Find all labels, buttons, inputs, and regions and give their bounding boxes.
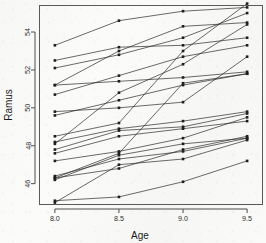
data-point bbox=[54, 59, 57, 62]
data-point bbox=[246, 120, 249, 123]
data-point bbox=[246, 116, 249, 119]
data-point bbox=[118, 50, 121, 53]
x-tick-label: 8.0 bbox=[50, 214, 60, 223]
series-line bbox=[55, 74, 247, 116]
x-tick-label: 9.5 bbox=[242, 214, 252, 223]
data-point bbox=[182, 63, 185, 66]
data-point bbox=[182, 44, 185, 47]
data-point bbox=[182, 10, 185, 13]
data-point bbox=[118, 107, 121, 110]
data-point bbox=[118, 163, 121, 166]
data-point bbox=[246, 72, 249, 75]
data-point bbox=[246, 44, 249, 47]
data-point bbox=[54, 135, 57, 138]
series-subject-6 bbox=[54, 36, 249, 61]
data-point bbox=[54, 148, 57, 151]
series-subject-10 bbox=[54, 139, 249, 204]
series-layer bbox=[54, 2, 249, 204]
data-point bbox=[182, 143, 185, 146]
data-point bbox=[118, 91, 121, 94]
data-point bbox=[118, 99, 121, 102]
x-axis: 8.08.59.09.5 bbox=[50, 209, 252, 223]
data-point bbox=[54, 201, 57, 204]
data-point bbox=[246, 55, 249, 58]
series-line bbox=[55, 57, 247, 112]
series-subject-14 bbox=[54, 110, 249, 143]
data-point bbox=[246, 137, 249, 140]
data-point bbox=[246, 2, 249, 5]
data-point bbox=[182, 50, 185, 53]
x-tick-label: 9.0 bbox=[178, 214, 188, 223]
data-point bbox=[54, 141, 57, 144]
y-tick-label: 48 bbox=[24, 142, 33, 150]
data-point bbox=[182, 25, 185, 28]
series-subject-4 bbox=[54, 160, 249, 202]
data-point bbox=[182, 120, 185, 123]
y-axis: 4648505254 bbox=[24, 28, 36, 188]
series-subject-18 bbox=[54, 6, 249, 47]
data-point bbox=[182, 148, 185, 151]
y-axis-title: Ramus bbox=[3, 89, 14, 121]
data-point bbox=[54, 114, 57, 117]
data-point bbox=[118, 152, 121, 155]
data-point bbox=[118, 19, 121, 22]
data-point bbox=[182, 82, 185, 85]
data-point bbox=[246, 36, 249, 39]
data-point bbox=[118, 167, 121, 170]
series-subject-9 bbox=[54, 23, 249, 145]
series-line bbox=[55, 74, 247, 178]
data-point bbox=[54, 177, 57, 180]
series-line bbox=[55, 38, 247, 61]
data-point bbox=[54, 44, 57, 47]
data-point bbox=[54, 110, 57, 113]
x-axis-title: Age bbox=[131, 230, 149, 241]
data-point bbox=[182, 55, 185, 58]
data-point bbox=[182, 137, 185, 140]
data-point bbox=[54, 160, 57, 163]
x-tick-label: 8.5 bbox=[114, 214, 124, 223]
data-point bbox=[54, 152, 57, 155]
series-line bbox=[55, 136, 247, 178]
series-subject-20 bbox=[54, 72, 249, 179]
data-point bbox=[246, 23, 249, 26]
data-point bbox=[246, 12, 249, 15]
data-point bbox=[182, 36, 185, 39]
data-point bbox=[118, 74, 121, 77]
data-point bbox=[118, 135, 121, 138]
data-point bbox=[182, 158, 185, 161]
series-subject-13 bbox=[54, 12, 249, 70]
series-line bbox=[55, 117, 247, 161]
data-point bbox=[118, 122, 121, 125]
chart-canvas: 8.08.59.09.5 4648505254 Age Ramus bbox=[0, 0, 266, 243]
data-point bbox=[54, 67, 57, 70]
data-point bbox=[182, 180, 185, 183]
data-point bbox=[182, 76, 185, 79]
series-line bbox=[55, 7, 247, 45]
data-point bbox=[118, 46, 121, 49]
data-point bbox=[118, 196, 121, 199]
data-point bbox=[182, 101, 185, 104]
series-line bbox=[55, 13, 247, 68]
series-line bbox=[55, 23, 247, 86]
y-tick-label: 46 bbox=[24, 180, 33, 188]
series-line bbox=[55, 24, 247, 143]
y-tick-label: 50 bbox=[24, 104, 33, 112]
data-point bbox=[118, 80, 121, 83]
data-point bbox=[54, 93, 57, 96]
data-point bbox=[246, 110, 249, 113]
data-point bbox=[118, 53, 121, 56]
data-point bbox=[118, 127, 121, 130]
ramus-growth-chart: 8.08.59.09.5 4648505254 Age Ramus bbox=[0, 0, 266, 243]
data-point bbox=[54, 84, 57, 87]
y-tick-label: 52 bbox=[24, 66, 33, 74]
data-point bbox=[246, 160, 249, 163]
data-point bbox=[182, 127, 185, 130]
data-point bbox=[246, 6, 249, 9]
series-subject-8 bbox=[54, 55, 249, 113]
data-point bbox=[118, 158, 121, 161]
y-tick-label: 54 bbox=[24, 28, 33, 36]
